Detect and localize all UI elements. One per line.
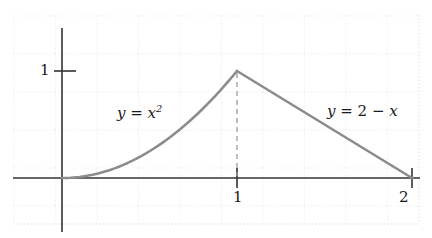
label-left-equals: = bbox=[125, 104, 147, 122]
label-right-x: x bbox=[389, 102, 397, 120]
x-axis-tick-label-1: 1 bbox=[233, 190, 243, 205]
label-curve-left-equation: y = x2 bbox=[117, 104, 162, 121]
curve-y-equals-2-minus-x bbox=[237, 71, 412, 178]
x-axis-tick-label-2: 2 bbox=[399, 190, 409, 205]
figure-plot-piecewise-function: y = x2 y = 2 − x 1 1 2 bbox=[0, 0, 432, 238]
label-left-exponent: 2 bbox=[156, 103, 162, 114]
label-right-equals: = 2 − bbox=[335, 102, 389, 120]
label-curve-right-equation: y = 2 − x bbox=[327, 104, 398, 119]
curve-y-equals-x-squared bbox=[62, 71, 237, 178]
label-left-x: x bbox=[148, 104, 156, 122]
y-axis-tick-label-1: 1 bbox=[40, 63, 50, 78]
